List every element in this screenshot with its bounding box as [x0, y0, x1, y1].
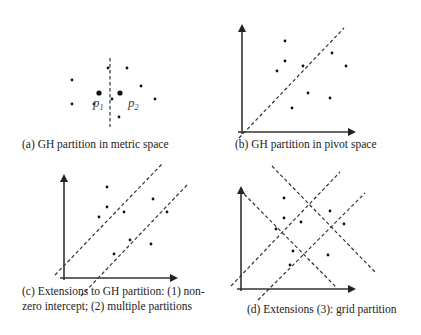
- data-point: [283, 197, 286, 200]
- data-point: [123, 211, 126, 214]
- panel-caption-line: (c) Extensions to GH partition: (1) non-: [22, 285, 205, 298]
- data-point: [166, 211, 169, 214]
- panel-d-grid-partition: (d) Extensions (3): grid partition: [231, 166, 397, 316]
- data-point: [106, 186, 109, 189]
- panel-c-extensions: (c) Extensions to GH partition: (1) non-…: [22, 163, 205, 313]
- data-point: [154, 98, 157, 101]
- panel-caption-line: zero intercept; (2) multiple partitions: [22, 300, 192, 313]
- data-point: [98, 216, 101, 219]
- data-point: [118, 116, 121, 119]
- data-point: [329, 210, 332, 213]
- data-point: [331, 52, 334, 55]
- data-point: [111, 98, 114, 101]
- data-point: [152, 198, 155, 201]
- data-point: [275, 228, 278, 231]
- data-point: [71, 103, 74, 106]
- figure-canvas: p1p2(a) GH partition in metric space (b)…: [0, 0, 421, 335]
- data-point: [283, 217, 286, 220]
- data-point: [129, 239, 132, 242]
- data-point: [345, 65, 348, 68]
- data-point: [276, 70, 279, 73]
- data-point: [302, 65, 305, 68]
- partition-line: [55, 163, 163, 275]
- data-point: [329, 97, 332, 100]
- data-point: [291, 107, 294, 110]
- data-point: [289, 264, 292, 267]
- panel-caption: (d) Extensions (3): grid partition: [247, 303, 397, 316]
- data-point: [307, 92, 310, 95]
- partition-line: [231, 172, 340, 286]
- data-point: [284, 60, 287, 63]
- panel-a-metric-space: p1p2(a) GH partition in metric space: [22, 58, 169, 151]
- data-point: [140, 85, 143, 88]
- panel-caption: (a) GH partition in metric space: [22, 138, 169, 151]
- panel-caption: (b) GH partition in pivot space: [235, 138, 376, 151]
- data-point: [113, 253, 116, 256]
- data-point: [106, 206, 109, 209]
- partition-line: [81, 184, 188, 296]
- data-point: [292, 250, 295, 253]
- partition-line: [272, 166, 375, 272]
- data-point: [300, 221, 303, 224]
- panel-b-pivot-space: (b) GH partition in pivot space: [235, 26, 376, 151]
- partition-line: [239, 28, 344, 138]
- data-point: [71, 79, 74, 82]
- data-point: [126, 67, 129, 70]
- data-point: [284, 40, 287, 43]
- partition-line: [258, 193, 365, 300]
- data-point: [150, 243, 153, 246]
- partition-line: [240, 190, 337, 288]
- data-point: [107, 67, 110, 70]
- data-point: [327, 254, 330, 257]
- data-point: [343, 223, 346, 226]
- pivot-label: p2: [127, 95, 139, 112]
- pivot-point: [117, 90, 122, 95]
- pivot-label: p1: [92, 95, 104, 112]
